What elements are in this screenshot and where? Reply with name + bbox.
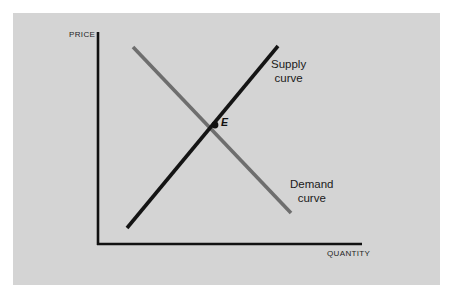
supply-demand-figure: PRICE QUANTITY Supply curve Demand curve… — [0, 0, 453, 298]
demand-curve — [133, 47, 291, 213]
demand-curve-label-line-2: curve — [290, 192, 333, 206]
supply-curve-label: Supply curve — [271, 58, 306, 85]
x-axis-label: QUANTITY — [327, 249, 370, 258]
y-axis-label: PRICE — [69, 30, 95, 39]
equilibrium-point-marker — [212, 122, 219, 129]
chart-canvas — [0, 0, 453, 298]
supply-curve-label-line-2: curve — [271, 72, 306, 86]
demand-curve-label: Demand curve — [290, 178, 333, 205]
supply-curve-label-line-1: Supply — [271, 58, 306, 72]
supply-curve — [127, 46, 278, 228]
demand-curve-label-line-1: Demand — [290, 178, 333, 192]
equilibrium-point-label: E — [221, 116, 228, 128]
